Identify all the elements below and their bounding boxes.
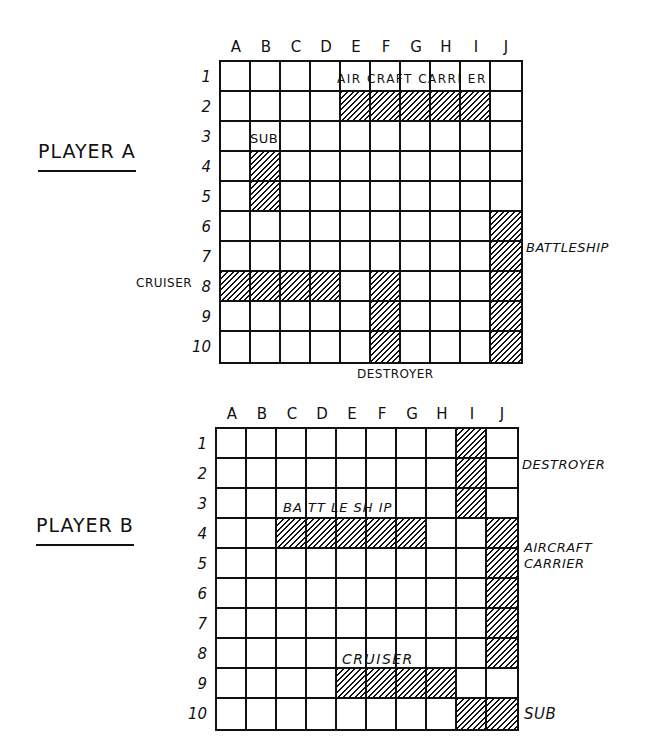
- ship-cell-f8[interactable]: [371, 272, 401, 302]
- grid-cell-f5[interactable]: [367, 549, 397, 579]
- grid-cell-b6[interactable]: [247, 579, 277, 609]
- grid-cell-f7[interactable]: [367, 609, 397, 639]
- grid-cell-j4[interactable]: [491, 152, 521, 182]
- ship-cell-i1[interactable]: [457, 429, 487, 459]
- grid-cell-e1[interactable]: [337, 429, 367, 459]
- grid-cell-d9[interactable]: [311, 302, 341, 332]
- grid-cell-b10[interactable]: [251, 332, 281, 362]
- ship-cell-j5[interactable]: [487, 549, 517, 579]
- grid-cell-i5[interactable]: [457, 549, 487, 579]
- grid-cell-e5[interactable]: [337, 549, 367, 579]
- grid-cell-b2[interactable]: [247, 459, 277, 489]
- ship-cell-j8[interactable]: [491, 272, 521, 302]
- grid-cell-a9[interactable]: [221, 302, 251, 332]
- grid-cell-d1[interactable]: [307, 429, 337, 459]
- grid-cell-g6[interactable]: [401, 212, 431, 242]
- ship-cell-c4[interactable]: [277, 519, 307, 549]
- grid-cell-b2[interactable]: [251, 92, 281, 122]
- grid-cell-h3[interactable]: [427, 489, 457, 519]
- grid-cell-a7[interactable]: [221, 242, 251, 272]
- grid-cell-d5[interactable]: [307, 549, 337, 579]
- grid-cell-e10[interactable]: [341, 332, 371, 362]
- grid-cell-i8[interactable]: [457, 639, 487, 669]
- grid-cell-b9[interactable]: [251, 302, 281, 332]
- grid-cell-c1[interactable]: [277, 429, 307, 459]
- ship-cell-i2[interactable]: [457, 459, 487, 489]
- ship-cell-j7[interactable]: [491, 242, 521, 272]
- grid-cell-e7[interactable]: [337, 609, 367, 639]
- grid-cell-c5[interactable]: [281, 182, 311, 212]
- ship-cell-f9[interactable]: [367, 669, 397, 699]
- ship-cell-b8[interactable]: [251, 272, 281, 302]
- grid-cell-c1[interactable]: [281, 62, 311, 92]
- grid-cell-g8[interactable]: [401, 272, 431, 302]
- ship-cell-b5[interactable]: [251, 182, 281, 212]
- grid-cell-h7[interactable]: [431, 242, 461, 272]
- ship-cell-g9[interactable]: [397, 669, 427, 699]
- grid-cell-d2[interactable]: [311, 92, 341, 122]
- ship-cell-f9[interactable]: [371, 302, 401, 332]
- ship-cell-j10[interactable]: [491, 332, 521, 362]
- grid-cell-a5[interactable]: [221, 182, 251, 212]
- grid-cell-d9[interactable]: [307, 669, 337, 699]
- ship-cell-i10[interactable]: [457, 699, 487, 729]
- grid-cell-b1[interactable]: [251, 62, 281, 92]
- ship-cell-a8[interactable]: [221, 272, 251, 302]
- grid-cell-j2[interactable]: [487, 459, 517, 489]
- grid-cell-d7[interactable]: [311, 242, 341, 272]
- grid-cell-c2[interactable]: [277, 459, 307, 489]
- grid-cell-a2[interactable]: [221, 92, 251, 122]
- grid-cell-b7[interactable]: [251, 242, 281, 272]
- grid-cell-h10[interactable]: [427, 699, 457, 729]
- grid-cell-g5[interactable]: [397, 549, 427, 579]
- grid-cell-c10[interactable]: [277, 699, 307, 729]
- grid-cell-h4[interactable]: [431, 152, 461, 182]
- grid-cell-h6[interactable]: [431, 212, 461, 242]
- grid-cell-h10[interactable]: [431, 332, 461, 362]
- grid-cell-a3[interactable]: [221, 122, 251, 152]
- grid-cell-d4[interactable]: [311, 152, 341, 182]
- grid-cell-i7[interactable]: [461, 242, 491, 272]
- grid-cell-j2[interactable]: [491, 92, 521, 122]
- grid-cell-b9[interactable]: [247, 669, 277, 699]
- grid-cell-h2[interactable]: [427, 459, 457, 489]
- grid-cell-e3[interactable]: [341, 122, 371, 152]
- grid-cell-a1[interactable]: [221, 62, 251, 92]
- ship-cell-i2[interactable]: [461, 92, 491, 122]
- ship-cell-e9[interactable]: [337, 669, 367, 699]
- grid-cell-e5[interactable]: [341, 182, 371, 212]
- grid-cell-g5[interactable]: [401, 182, 431, 212]
- grid-cell-c3[interactable]: [281, 122, 311, 152]
- grid-cell-e6[interactable]: [337, 579, 367, 609]
- grid-cell-a10[interactable]: [217, 699, 247, 729]
- ship-cell-f10[interactable]: [371, 332, 401, 362]
- grid-cell-f10[interactable]: [367, 699, 397, 729]
- grid-cell-e8[interactable]: [341, 272, 371, 302]
- grid-cell-e10[interactable]: [337, 699, 367, 729]
- grid-cell-b3[interactable]: [247, 489, 277, 519]
- ship-cell-h9[interactable]: [427, 669, 457, 699]
- grid-cell-j9[interactable]: [487, 669, 517, 699]
- grid-cell-d10[interactable]: [307, 699, 337, 729]
- grid-cell-a1[interactable]: [217, 429, 247, 459]
- grid-cell-f2[interactable]: [367, 459, 397, 489]
- grid-cell-b5[interactable]: [247, 549, 277, 579]
- ship-cell-d8[interactable]: [311, 272, 341, 302]
- ship-cell-e4[interactable]: [337, 519, 367, 549]
- ship-cell-j6[interactable]: [491, 212, 521, 242]
- grid-cell-i6[interactable]: [457, 579, 487, 609]
- grid-cell-d7[interactable]: [307, 609, 337, 639]
- grid-cell-d8[interactable]: [307, 639, 337, 669]
- grid-cell-d5[interactable]: [311, 182, 341, 212]
- grid-cell-i9[interactable]: [457, 669, 487, 699]
- grid-cell-c5[interactable]: [277, 549, 307, 579]
- ship-cell-e2[interactable]: [341, 92, 371, 122]
- grid-cell-e6[interactable]: [341, 212, 371, 242]
- grid-cell-c7[interactable]: [281, 242, 311, 272]
- grid-cell-g7[interactable]: [401, 242, 431, 272]
- grid-cell-d10[interactable]: [311, 332, 341, 362]
- ship-cell-h2[interactable]: [431, 92, 461, 122]
- grid-cell-c10[interactable]: [281, 332, 311, 362]
- grid-cell-i3[interactable]: [461, 122, 491, 152]
- grid-cell-h1[interactable]: [427, 429, 457, 459]
